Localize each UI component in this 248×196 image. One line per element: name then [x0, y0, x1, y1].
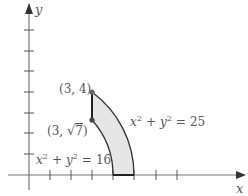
x-axis-arrow-icon: [236, 171, 246, 179]
y-axis-arrow-icon: [25, 3, 33, 14]
point-3-root7: [89, 117, 94, 122]
point-label-3-4: (3, 4): [59, 82, 91, 96]
y-axis-label: y: [34, 2, 43, 17]
point-label-3-root7: (3, √7): [47, 123, 88, 138]
x-axis-label: x: [236, 181, 244, 196]
outer-circle-equation: x2+y2=25: [130, 114, 205, 129]
inner-circle-equation: x2+y2=16: [36, 152, 111, 167]
diagram-canvas: x y (3, 4) (3, √7) x2+y2=25 x2+y2=16: [0, 0, 248, 196]
